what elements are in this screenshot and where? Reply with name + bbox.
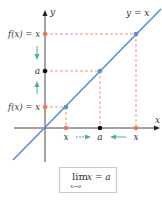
x-axis-label: x	[155, 115, 160, 125]
line-label: y = x	[125, 8, 149, 18]
y-label-bottom: f(x) = x	[7, 102, 40, 112]
x-axis-arrow-icon	[154, 126, 160, 131]
line-point-bottom	[64, 105, 69, 110]
y-axis-label: y	[49, 7, 56, 17]
arrow-right-icon	[76, 135, 91, 140]
x-label-a: a	[97, 132, 102, 142]
x-point-right	[134, 126, 139, 131]
y-point-bottom	[43, 105, 48, 110]
x-point-left	[64, 126, 69, 131]
limit-formula-box: lim x→a x = a	[59, 167, 117, 193]
x-label-right: x	[133, 132, 138, 142]
lim-subscript: x→a	[70, 183, 81, 189]
x-point-a	[98, 126, 103, 131]
x-label-left: x	[63, 132, 68, 142]
lim-expression: x = a	[87, 172, 111, 182]
lim-text: lim	[72, 171, 88, 182]
y-point-top	[43, 32, 48, 37]
arrow-down-icon	[35, 46, 40, 60]
y-label-a: a	[35, 66, 40, 76]
y-point-a	[43, 69, 48, 74]
arrow-left-icon	[110, 135, 126, 140]
y-label-top: f(x) = x	[7, 29, 40, 39]
y-axis-arrow-icon	[43, 10, 48, 16]
line-point-middle	[98, 69, 103, 74]
line-point-top	[134, 32, 139, 37]
arrow-up-icon	[35, 81, 40, 94]
